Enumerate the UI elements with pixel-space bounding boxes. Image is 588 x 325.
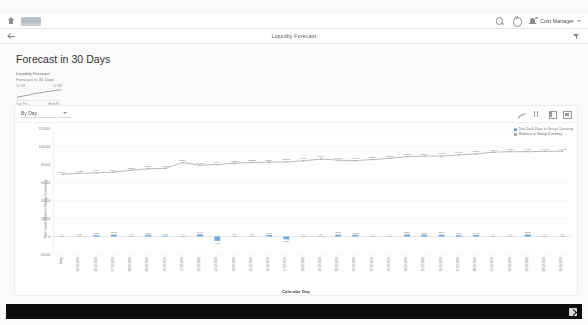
line-chart-icon[interactable] [518,110,526,118]
svg-text:9: 9 [544,233,546,236]
fullscreen-icon[interactable] [563,110,571,118]
svg-text:36: 36 [233,233,237,236]
svg-text:9377: 9377 [489,148,497,151]
svg-text:22.02.2019: 22.02.2019 [369,257,374,271]
export-icon[interactable] [569,308,577,316]
svg-text:8293: 8293 [282,158,290,161]
svg-text:29: 29 [250,233,254,236]
kpi-value-right: 12.9M [53,84,62,88]
kpi-sparkline-values: 10.5M 12.9M [16,84,62,88]
svg-text:6: 6 [492,233,494,236]
svg-text:8557: 8557 [369,156,377,159]
shell-bar-right: Cost Manager [495,17,581,26]
filter-icon[interactable] [572,32,581,41]
user-menu[interactable]: Cost Manager [529,17,581,26]
svg-text:0: 0 [48,235,50,238]
svg-text:7994: 7994 [213,161,221,164]
x-axis-title: Calendar Day [15,289,577,294]
svg-text:12000: 12000 [39,127,51,130]
svg-text:18.02.2019: 18.02.2019 [300,257,305,271]
kpi-sparkline: 10.5M 12.9M [16,84,62,101]
svg-text:163: 163 [473,231,479,234]
svg-text:8: 8 [61,233,63,236]
svg-text:9184: 9184 [472,150,480,153]
svg-text:10000: 10000 [39,145,51,148]
svg-text:25.02.2019: 25.02.2019 [421,257,426,271]
svg-text:213: 213 [111,231,117,234]
svg-text:7: 7 [372,233,374,236]
svg-text:5: 5 [320,233,322,236]
company-logo[interactable] [21,17,41,26]
svg-text:186: 186 [145,231,151,234]
svg-text:21.02.2019: 21.02.2019 [352,257,357,271]
chevron-down-icon[interactable] [577,20,581,22]
svg-text:8941: 8941 [420,152,428,155]
svg-text:7921: 7921 [196,161,204,164]
shell-bar-left [7,17,41,26]
svg-text:232: 232 [525,231,531,234]
bell-icon[interactable] [529,17,537,26]
kpi-value-left: 10.5M [16,84,25,88]
dimension-select[interactable]: By Day [21,110,71,118]
chart-body: Net Cash Flow in Group Currency Balance … [15,123,577,295]
svg-text:8948: 8948 [438,152,446,155]
svg-text:8: 8 [303,233,305,236]
bar-data-labels: 81213521314186736246-4893629157-32685205… [61,231,564,245]
svg-text:139: 139 [456,232,462,235]
svg-text:Today: Today [59,257,64,265]
svg-text:9482: 9482 [559,147,567,150]
svg-text:8159: 8159 [231,159,239,162]
column-chart-icon[interactable] [533,110,541,118]
svg-text:10.02.2019: 10.02.2019 [162,257,167,271]
svg-text:08.02.2019: 08.02.2019 [128,257,133,271]
user-name-label: Cost Manager [540,18,574,24]
footer-bar [6,304,582,319]
svg-text:73: 73 [164,232,168,235]
svg-text:9427: 9427 [507,148,515,151]
svg-text:14.02.2019: 14.02.2019 [231,257,236,271]
svg-text:6909: 6909 [58,170,66,173]
chart-toolbar-actions [518,110,571,118]
svg-text:8614: 8614 [317,155,325,158]
plot-area[interactable]: 81213521314186736246-4893629157-32685205… [15,123,577,295]
kpi-card[interactable]: Liquidity Forecast Forecast in 30 Days 1… [16,71,80,106]
chart-svg: 81213521314186736246-4893629157-32685205… [15,123,577,295]
legend-toggle-icon[interactable] [548,110,556,118]
svg-text:172: 172 [352,231,358,234]
help-icon[interactable] [512,17,521,26]
svg-text:7084: 7084 [93,169,101,172]
svg-text:11: 11 [561,233,565,236]
svg-text:01.03.2019: 01.03.2019 [490,257,495,271]
svg-text:206: 206 [439,231,445,234]
page-title: Forecast in 30 Days [16,53,110,65]
search-icon[interactable] [495,17,504,26]
svg-text:-326: -326 [283,240,290,243]
svg-text:8414: 8414 [300,157,308,160]
svg-text:07.02.2019: 07.02.2019 [110,257,115,271]
app-root: Cost Manager Liquidity Forecast Forecast… [0,0,588,325]
svg-text:23.02.2019: 23.02.2019 [386,257,391,271]
home-icon[interactable] [7,17,15,25]
svg-text:24.02.2019: 24.02.2019 [404,257,409,271]
chart-toolbar: By Day [15,106,577,123]
svg-text:8442: 8442 [351,157,359,160]
svg-text:4: 4 [389,233,391,236]
svg-text:8224: 8224 [179,159,187,162]
svg-text:27.02.2019: 27.02.2019 [455,257,460,271]
kpi-card-subtitle: Forecast in 30 Days [16,77,80,83]
svg-text:205: 205 [335,231,341,234]
x-axis-ticks: Today05.02.201906.02.201907.02.201908.02… [59,254,564,271]
svg-text:231: 231 [404,231,410,234]
svg-text:9470: 9470 [541,147,549,150]
chevron-down-icon[interactable] [63,112,67,114]
y-axis-title: Net Cash Flow in Group Currency [43,180,48,238]
svg-text:198: 198 [421,231,427,234]
svg-text:14: 14 [129,233,133,236]
notification-dot [535,17,538,20]
bar-series [59,234,565,241]
svg-text:7536: 7536 [144,165,152,168]
svg-text:-489: -489 [214,242,221,245]
svg-text:-2000: -2000 [40,253,51,256]
svg-text:05.03.2019: 05.03.2019 [559,257,564,271]
svg-text:7022: 7022 [75,169,83,172]
